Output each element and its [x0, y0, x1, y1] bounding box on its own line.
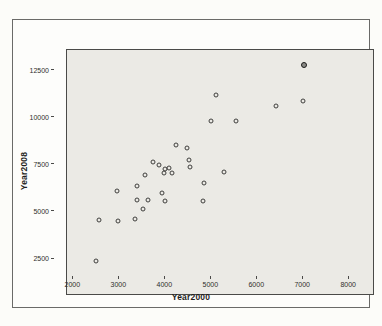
scatter-point [174, 142, 179, 147]
scatter-point [142, 173, 147, 178]
scatter-point [188, 165, 193, 170]
plot-area [66, 49, 374, 295]
y-tick-label: 10000 [19, 113, 49, 120]
scatter-point [186, 157, 191, 162]
scatter-point [201, 199, 206, 204]
chart-outer-frame: 2000300040005000600070008000250050007500… [12, 19, 370, 308]
x-tick-mark [256, 276, 257, 279]
x-tick-mark [210, 276, 211, 279]
x-axis-title: Year2000 [0, 292, 382, 302]
x-tick-label: 6000 [248, 281, 264, 288]
scatter-point [156, 162, 161, 167]
scatter-point [116, 219, 121, 224]
scatter-point [221, 169, 226, 174]
y-tick-mark [51, 258, 54, 259]
x-tick-mark [348, 276, 349, 279]
scatter-point [145, 198, 150, 203]
scatter-point [214, 92, 219, 97]
x-tick-mark [164, 276, 165, 279]
y-tick-mark [51, 210, 54, 211]
y-tick-label: 5000 [19, 207, 49, 214]
scatter-point [151, 159, 156, 164]
y-axis-title: Year2008 [19, 136, 29, 206]
scatter-point [201, 180, 206, 185]
scatter-point [135, 198, 140, 203]
scatter-point [162, 170, 167, 175]
y-tick-label: 2500 [19, 255, 49, 262]
x-tick-mark [118, 276, 119, 279]
scatter-point [170, 171, 175, 176]
y-tick-mark [51, 163, 54, 164]
scatter-point [300, 99, 305, 104]
scatter-point [132, 216, 137, 221]
scatter-point [96, 218, 101, 223]
x-tick-label: 3000 [111, 281, 127, 288]
x-tick-label: 2000 [65, 281, 81, 288]
x-tick-label: 5000 [203, 281, 219, 288]
scatter-point [209, 119, 214, 124]
y-tick-mark [51, 69, 54, 70]
x-tick-mark [302, 276, 303, 279]
y-tick-mark [51, 116, 54, 117]
scatter-point [185, 145, 190, 150]
scatter-point [273, 103, 278, 108]
x-tick-mark [72, 276, 73, 279]
scatter-point-overlapping [301, 62, 307, 68]
scatter-point [140, 207, 145, 212]
x-tick-label: 4000 [157, 281, 173, 288]
scatter-point [135, 183, 140, 188]
scanned-chart-page: 2000300040005000600070008000250050007500… [0, 0, 382, 326]
x-tick-label: 8000 [340, 281, 356, 288]
scatter-point [114, 189, 119, 194]
scatter-point [233, 118, 238, 123]
scatter-point [160, 191, 165, 196]
scatter-point [162, 199, 167, 204]
scatter-point [94, 259, 99, 264]
x-tick-label: 7000 [294, 281, 310, 288]
y-tick-label: 12500 [19, 66, 49, 73]
